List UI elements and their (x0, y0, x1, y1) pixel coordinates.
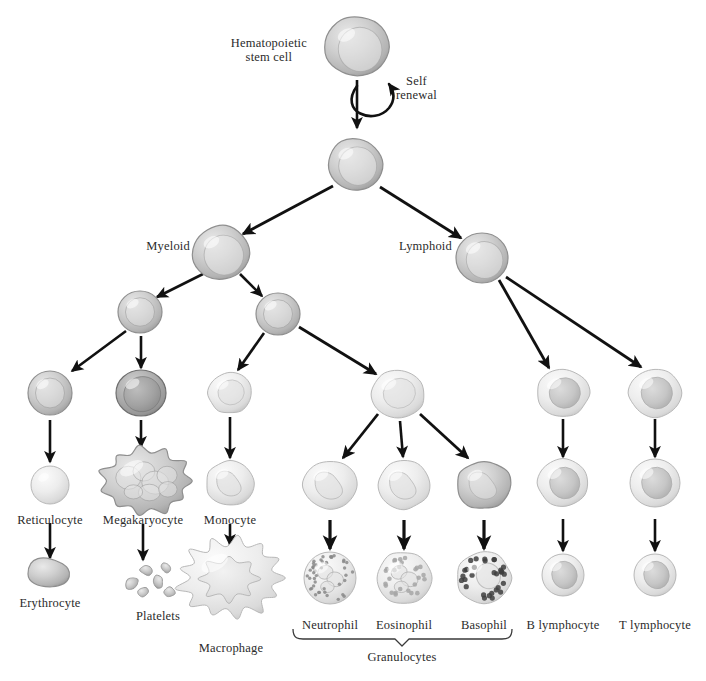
cytoplasmic-granule (393, 558, 398, 563)
stem-cell-label-line2: stem cell (231, 50, 307, 64)
diagram-canvas (0, 0, 706, 681)
cytoplasmic-granule (416, 575, 421, 580)
cytoplasmic-granule (487, 593, 492, 598)
t-lymphocyte-label: T lymphocyte (619, 618, 691, 632)
cytoplasmic-granule (318, 591, 321, 594)
cytoplasmic-granule (496, 585, 501, 590)
cell-b-lymphocyte-intermediate (537, 459, 587, 507)
neutrophil-label: Neutrophil (302, 618, 358, 632)
cytoplasmic-granule (409, 591, 414, 596)
lymphoid-label: Lymphoid (399, 239, 452, 253)
cytoplasmic-granule (306, 574, 309, 577)
cell-lymphoid-progenitor (456, 233, 508, 284)
arrow-gm-to-monoblast (238, 333, 264, 370)
cytoplasmic-granule (313, 577, 316, 580)
cytoplasmic-granule (330, 555, 333, 558)
cell-b-lymphocyte (542, 554, 584, 596)
cytoplasmic-granule (384, 583, 389, 588)
cell-nucleus (321, 581, 335, 592)
cell-myeloblast (371, 370, 424, 418)
cell-proerythroblast (28, 371, 72, 415)
reticulocyte-label: Reticulocyte (17, 513, 83, 527)
self-renewal-label-line2: renewal (396, 88, 437, 102)
arrow-myeloid-to-erythroid (157, 274, 203, 297)
arrow-myeloblast-to-eosinophil-pre (400, 421, 403, 457)
cytoplasmic-granule (341, 593, 344, 596)
cell-nucleus (159, 482, 177, 497)
cytoplasmic-granule (321, 555, 324, 558)
self-renewal-label-line1: Self (396, 74, 437, 88)
cell-nucleus (124, 485, 142, 499)
cell-promonocyte (207, 460, 254, 504)
stem-cell-label-line1: Hematopoietic (231, 36, 307, 50)
cell-erythrocyte (28, 558, 70, 587)
arrow-progenitor-to-lymphoid (380, 187, 461, 238)
cytoplasmic-granule (344, 574, 347, 577)
arrow-myeloblast-to-basophil-pre (420, 414, 468, 458)
cell-granulocyte-monocyte-progenitor (256, 293, 300, 335)
cell-megakaryocyte (99, 445, 192, 515)
cell-megakaryoblast (116, 370, 166, 416)
cytoplasmic-granule (498, 589, 503, 594)
myeloid-label: Myeloid (146, 239, 190, 253)
platelets-label: Platelets (136, 609, 180, 623)
cytoplasmic-granule (482, 595, 487, 600)
cytoplasmic-granule (343, 566, 346, 569)
basophil-label: Basophil (461, 618, 507, 632)
arrow-erythroid-to-proerythroblast (72, 331, 126, 371)
arrow-lymphoid-to-t (506, 277, 641, 367)
cytoplasmic-granule (403, 556, 408, 561)
cytoplasmic-granule (310, 587, 313, 590)
arrow-lymphoid-to-b (499, 280, 549, 368)
cytoplasmic-granule (351, 570, 354, 573)
arrow-gm-to-myeloblast (299, 327, 376, 374)
cytoplasmic-granule (337, 598, 340, 601)
cell-eosinophil (377, 553, 432, 604)
cell-body (28, 558, 70, 587)
arrow-myeloid-to-gm-progenitor (240, 274, 262, 296)
cytoplasmic-granule (415, 591, 420, 596)
cell-t-lymphocyte (634, 554, 676, 596)
platelet (137, 587, 149, 598)
cell-multipotent-progenitor (329, 139, 383, 191)
arrow-progenitor-to-myeloid (243, 186, 333, 234)
cell-t-lymphocyte-intermediate (630, 459, 680, 507)
cytoplasmic-granule (338, 583, 341, 586)
macrophage-label: Macrophage (199, 641, 263, 655)
cell-neutrophil-precursor (302, 462, 357, 510)
platelet (163, 586, 177, 599)
cytoplasmic-granule (313, 580, 316, 583)
cytoplasmic-granule (389, 591, 394, 596)
cell-hematopoietic-stem-cell (325, 17, 390, 78)
stem-cell-label: Hematopoieticstem cell (231, 36, 307, 64)
cytoplasmic-granule (322, 587, 325, 590)
platelet (150, 573, 166, 590)
cell-neutrophil (304, 552, 356, 604)
cell-monoblast (208, 372, 252, 412)
platelet (139, 564, 154, 577)
platelet-cluster (123, 561, 176, 598)
cytoplasmic-granule (501, 565, 506, 570)
megakaryocyte-label: Megakaryocyte (103, 513, 183, 527)
cell-b-lymphoblast (538, 369, 590, 416)
cytoplasmic-granule (460, 574, 465, 579)
erythrocyte-label: Erythrocyte (19, 596, 80, 610)
monocyte-label: Monocyte (204, 513, 256, 527)
cell-basophil-precursor (458, 462, 511, 509)
cytoplasmic-granule (482, 557, 487, 562)
cell-basophil (458, 552, 512, 604)
cell-reticulocyte (31, 466, 69, 504)
platelet (123, 575, 141, 591)
hematopoiesis-diagram: Hematopoieticstem cellSelfrenewalMyeloid… (0, 0, 706, 681)
cytoplasmic-granule (323, 591, 326, 594)
cytoplasmic-granule (345, 561, 348, 564)
cytoplasmic-granule (413, 582, 418, 587)
eosinophil-label: Eosinophil (376, 618, 432, 632)
cytoplasmic-granule (502, 572, 507, 577)
b-lymphocyte-label: B lymphocyte (527, 618, 600, 632)
cytoplasmic-granule (501, 581, 506, 586)
cytoplasmic-granule (494, 571, 499, 576)
cell-myeloid-progenitor (193, 225, 250, 281)
cytoplasmic-granule (415, 565, 420, 570)
cell-erythroid-progenitor (118, 291, 162, 333)
